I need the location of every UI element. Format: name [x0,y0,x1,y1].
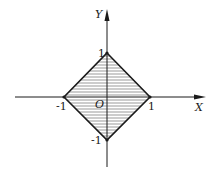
vertex-bottom [105,138,108,141]
x-axis-arrow-icon [194,95,206,100]
tick-label-x-neg: -1 [56,100,67,113]
y-axis-arrow-icon [105,9,110,21]
vertex-right [148,95,151,98]
vertex-top [105,51,108,54]
tick-label-y-pos: 1 [98,47,105,60]
diagram-canvas: Y X O 1 1 -1 -1 [0,0,218,178]
tick-label-x-pos: 1 [148,100,155,113]
x-axis-label: X [194,101,204,114]
vertex-left [62,95,65,98]
origin-label: O [95,98,104,111]
tick-label-y-neg: -1 [91,134,102,147]
y-axis-label: Y [95,8,104,21]
